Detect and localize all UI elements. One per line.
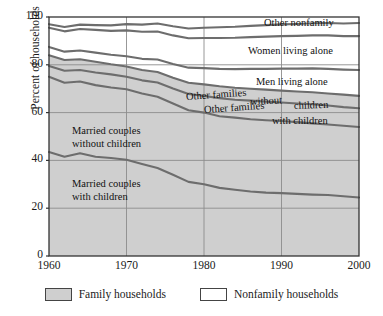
legend-item-nonfamily: Nonfamily households	[200, 288, 338, 301]
y-tick-40: 40	[10, 152, 43, 164]
series-label-without-children: without children	[72, 138, 141, 149]
x-tick-1960: 1960	[23, 259, 75, 271]
series-label-men-living-alone: Men living alone	[256, 76, 328, 87]
y-tick-100: 100	[10, 9, 43, 21]
series-label-children: children	[294, 99, 329, 111]
legend-label-nonfamily: Nonfamily households	[234, 288, 338, 300]
y-axis-label: Percent of households	[29, 0, 41, 153]
y-tick-20: 20	[10, 200, 43, 212]
y-tick-60: 60	[10, 105, 43, 117]
legend-label-family: Family households	[79, 288, 166, 300]
x-tick-2000: 2000	[333, 259, 383, 271]
series-label-married-couples: Married couples	[72, 125, 141, 136]
legend-item-family: Family households	[45, 288, 166, 301]
series-label-women-living-alone: Women living alone	[248, 45, 333, 56]
x-tick-1980: 1980	[178, 259, 230, 271]
y-tick-80: 80	[10, 57, 43, 69]
chart-figure: Percent of households 020406080100 19601…	[0, 0, 383, 316]
series-label-with-children: with children	[72, 191, 128, 202]
legend-swatch-family	[45, 288, 72, 301]
chart-legend: Family households Nonfamily households	[0, 282, 383, 306]
legend-swatch-nonfamily	[200, 288, 227, 301]
series-label-other-nonfamily: Other nonfamily	[264, 17, 334, 28]
series-label-with-children: with children	[272, 115, 328, 126]
x-tick-1970: 1970	[101, 259, 153, 271]
x-tick-1990: 1990	[256, 259, 308, 271]
series-label-married-couples: Married couples	[72, 178, 141, 189]
